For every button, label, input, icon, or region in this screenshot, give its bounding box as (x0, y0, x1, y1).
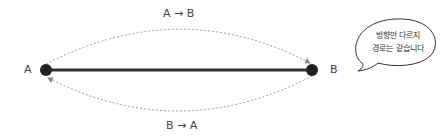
edge-b-to-a-label: B → A (166, 119, 197, 132)
diagram-canvas (0, 0, 442, 139)
callout-text: 방향만 다르지 경로는 같습니다 (358, 29, 438, 55)
edge-b-to-a (48, 76, 312, 111)
node-a-label: A (24, 63, 32, 76)
node-b (306, 64, 318, 76)
callout-line-1: 방향만 다르지 (358, 29, 438, 42)
callout-line-2: 경로는 같습니다 (358, 42, 438, 55)
edge-a-to-b-label: A → B (163, 7, 194, 20)
node-a (40, 64, 52, 76)
edge-a-to-b (46, 29, 310, 64)
node-b-label: B (330, 63, 338, 76)
